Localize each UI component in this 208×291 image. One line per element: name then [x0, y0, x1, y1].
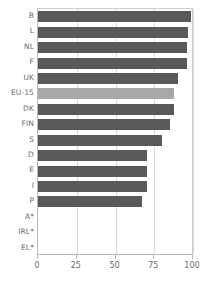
gridline-100 — [193, 9, 194, 254]
category-label-F: F — [30, 54, 34, 69]
bar-UK — [38, 73, 178, 84]
category-label-FIN: FIN — [22, 116, 34, 131]
bar-row — [38, 55, 187, 70]
category-label-L: L — [30, 23, 34, 38]
category-label-Astar: A* — [25, 209, 34, 224]
x-tick-label-100: 100 — [184, 261, 199, 270]
category-label-E: E — [29, 162, 34, 177]
bar-FIN — [38, 119, 170, 130]
x-tick-label-50: 50 — [109, 261, 119, 270]
bar-row — [38, 148, 147, 163]
category-axis-labels: BLNLFUKEU-15DKFINSDEIPA*IRL*EL* — [0, 8, 34, 255]
x-axis-tick-labels: 0255075100 — [0, 261, 208, 275]
bar-row — [38, 40, 187, 55]
x-tick-label-0: 0 — [34, 261, 39, 270]
bar-row — [38, 117, 170, 132]
plot-area — [37, 8, 193, 255]
tickmark-100 — [192, 255, 193, 259]
category-label-EU-15: EU-15 — [11, 85, 34, 100]
category-label-NL: NL — [24, 39, 34, 54]
category-label-B: B — [29, 8, 34, 23]
bar-I — [38, 181, 147, 192]
tickmark-50 — [115, 255, 116, 259]
bar-row — [38, 9, 191, 24]
bar-EU-15 — [38, 88, 174, 99]
bar-B — [38, 11, 191, 22]
bar-NL — [38, 42, 187, 53]
bar-row — [38, 24, 188, 39]
bar-F — [38, 58, 187, 69]
bar-DK — [38, 104, 174, 115]
category-label-I: I — [32, 178, 34, 193]
bar-E — [38, 166, 147, 177]
bar-row — [38, 163, 147, 178]
category-label-S: S — [29, 132, 34, 147]
bar-row — [38, 133, 162, 148]
bar-L — [38, 27, 188, 38]
category-label-IRLstar: IRL* — [18, 224, 34, 239]
bar-row — [38, 71, 178, 86]
bar-row — [38, 86, 174, 101]
category-label-ELstar: EL* — [21, 240, 34, 255]
bar-P — [38, 196, 142, 207]
category-label-DK: DK — [23, 101, 34, 116]
bar-row — [38, 194, 142, 209]
bar-row — [38, 102, 174, 117]
bar-row — [38, 179, 147, 194]
bar-D — [38, 150, 147, 161]
x-tick-label-25: 25 — [71, 261, 81, 270]
tickmark-0 — [37, 255, 38, 259]
bar-series — [38, 9, 192, 254]
category-label-P: P — [29, 193, 34, 208]
tickmark-25 — [76, 255, 77, 259]
tickmark-75 — [153, 255, 154, 259]
bar-S — [38, 135, 162, 146]
category-label-UK: UK — [23, 70, 34, 85]
x-tick-label-75: 75 — [148, 261, 158, 270]
bar-chart: BLNLFUKEU-15DKFINSDEIPA*IRL*EL* 02550751… — [0, 0, 208, 291]
category-label-D: D — [28, 147, 34, 162]
